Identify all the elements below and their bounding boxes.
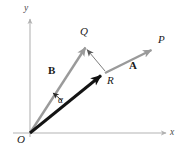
x-axis-label: x: [170, 128, 174, 138]
connector-r-to-q: [87, 50, 105, 72]
vector-label-b: B: [48, 65, 55, 76]
vector-b-arrow: [30, 48, 86, 134]
diagram-canvas: [0, 0, 178, 156]
vector-label-a: A: [129, 60, 137, 71]
vector-resultant-arrow: [30, 76, 101, 134]
vector-diagram-figure: y x O Q P R A B α: [0, 0, 178, 156]
angle-label-alpha: α: [58, 96, 63, 106]
point-label-r: R: [107, 75, 114, 86]
y-axis-label: y: [24, 4, 28, 14]
point-label-o: O: [17, 134, 25, 145]
point-label-p: P: [158, 34, 165, 45]
axis-group: [13, 19, 166, 137]
point-label-q: Q: [80, 26, 88, 37]
